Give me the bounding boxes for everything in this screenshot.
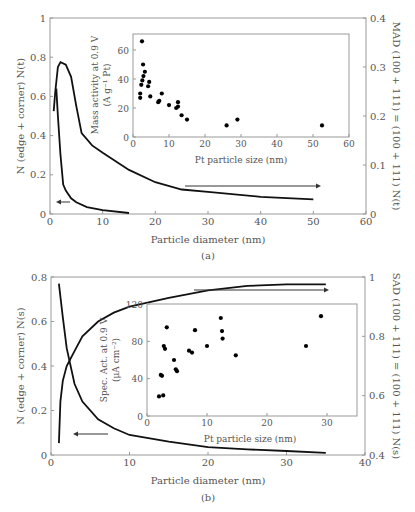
panel-b-inset: 0102030 04080120 Pt particle size (nm) S… xyxy=(99,300,357,445)
panel-a-x-axis-label: Particle diameter (nm) xyxy=(151,234,266,245)
scatter-point xyxy=(172,358,176,362)
x-tick-label: 30 xyxy=(235,139,247,149)
panel-a-caption: (a) xyxy=(201,250,215,261)
panel-a-inset-y-axis-label-line1: Mass activity at 0.9 V xyxy=(90,35,100,134)
y-tick-label: 0.2 xyxy=(370,111,386,122)
scatter-point xyxy=(320,123,324,127)
y-tick-label: 0.4 xyxy=(31,361,47,372)
scatter-point xyxy=(146,84,150,88)
x-tick-label: 10 xyxy=(123,457,136,468)
x-tick-label: 20 xyxy=(199,139,211,149)
y-tick-label: 0 xyxy=(123,133,129,143)
y-tick-label: 80 xyxy=(132,337,144,347)
scatter-point xyxy=(138,91,142,95)
scatter-point xyxy=(157,394,161,398)
scatter-point xyxy=(147,80,151,84)
scatter-point xyxy=(176,100,180,104)
scatter-point xyxy=(139,83,143,87)
y-tick-label: 120 xyxy=(126,300,143,310)
scatter-point xyxy=(190,350,194,354)
x-tick-label: 0 xyxy=(47,216,53,227)
y-tick-label: 0.6 xyxy=(369,390,385,401)
panel-b-inset-frame xyxy=(147,304,357,416)
scatter-point xyxy=(180,113,184,117)
panel-b-inset-y-axis-label-line1: Spec. Act. at 0.9 V xyxy=(99,317,109,402)
panel-a-inset-y-axis-label-line2: (A g⁻¹ Pt) xyxy=(102,63,112,106)
y-tick-label: 0 xyxy=(370,209,376,220)
panel-b-left-y-axis-label: N (edge + corner) N(s) xyxy=(15,307,26,425)
right-arrow-icon xyxy=(194,288,329,293)
scatter-point xyxy=(225,123,229,127)
y-tick-label: 0.8 xyxy=(31,272,47,283)
y-tick-label: 0 xyxy=(137,412,143,422)
panel-a-inset-x-axis-label: Pt particle size (nm) xyxy=(195,155,287,165)
x-tick-label: 10 xyxy=(163,139,175,149)
scatter-point xyxy=(163,347,167,351)
scatter-point xyxy=(176,104,180,108)
x-tick-label: 30 xyxy=(321,418,333,428)
x-tick-label: 0 xyxy=(130,139,136,149)
scatter-point xyxy=(140,39,144,43)
panel-b-right-y-axis-label: SAD (100 + 111) = (100 + 111) N(s) xyxy=(391,273,402,459)
panel-a: 0102030405060 00.20.40.60.81 00.10.20.30… xyxy=(15,13,402,262)
x-tick-label: 50 xyxy=(307,216,320,227)
x-tick-label: 50 xyxy=(307,139,319,149)
y-tick-label: 60 xyxy=(118,46,130,56)
scatter-point xyxy=(185,118,189,122)
x-tick-label: 20 xyxy=(149,216,162,227)
scatter-point xyxy=(304,344,308,348)
scatter-point xyxy=(193,328,197,332)
y-tick-label: 1 xyxy=(369,272,375,283)
y-tick-label: 0.4 xyxy=(369,450,385,461)
y-tick-label: 0.2 xyxy=(30,169,46,180)
y-tick-label: 0.3 xyxy=(370,62,386,73)
y-tick-label: 0 xyxy=(40,209,46,220)
panel-b-caption: (b) xyxy=(201,492,215,503)
y-tick-label: 0.6 xyxy=(30,91,46,102)
scatter-point xyxy=(138,96,142,100)
y-tick-label: 0.1 xyxy=(370,160,386,171)
left-arrow-icon xyxy=(56,200,70,205)
x-tick-label: 10 xyxy=(96,216,109,227)
x-tick-label: 10 xyxy=(201,418,213,428)
x-tick-label: 30 xyxy=(280,457,293,468)
scatter-point xyxy=(220,329,224,333)
scatter-point xyxy=(140,78,144,82)
x-tick-label: 40 xyxy=(271,139,283,149)
panel-b-inset-y-axis-label-line2: (μA cm⁻²) xyxy=(111,338,121,382)
scatter-point xyxy=(234,353,238,357)
scatter-point xyxy=(319,314,323,318)
x-tick-label: 20 xyxy=(261,418,273,428)
y-tick-label: 0.4 xyxy=(370,13,386,24)
panel-a-inset-frame xyxy=(133,34,349,137)
x-tick-label: 60 xyxy=(343,139,355,149)
left-arrow-icon xyxy=(73,432,108,437)
y-tick-label: 0.2 xyxy=(31,405,47,416)
scatter-point xyxy=(235,118,239,122)
scatter-point xyxy=(160,91,164,95)
scatter-point xyxy=(219,316,223,320)
y-tick-label: 0.4 xyxy=(30,130,46,141)
y-tick-label: 0.8 xyxy=(369,331,385,342)
panel-b-x-ticks: 010203040 xyxy=(48,452,372,468)
scatter-point xyxy=(157,99,161,103)
y-tick-label: 1 xyxy=(40,13,46,24)
panel-a-x-ticks: 0102030405060 xyxy=(47,211,373,227)
y-tick-label: 0.6 xyxy=(31,316,47,327)
scatter-point xyxy=(167,103,171,107)
scatter-point xyxy=(143,70,147,74)
panel-a-left-y-axis-label: N (edge + corner) N(t) xyxy=(15,58,26,174)
scatter-point xyxy=(141,62,145,66)
scatter-point xyxy=(161,393,165,397)
y-tick-label: 0.8 xyxy=(30,52,46,63)
x-tick-label: 0 xyxy=(144,418,150,428)
y-tick-label: 40 xyxy=(118,75,130,85)
scatter-point xyxy=(141,74,145,78)
panel-b-x-axis-label: Particle diameter (nm) xyxy=(151,475,266,486)
scatter-point xyxy=(160,374,164,378)
right-arrow-icon xyxy=(185,184,321,189)
y-tick-label: 20 xyxy=(118,104,130,114)
scatter-point xyxy=(205,344,209,348)
x-tick-label: 20 xyxy=(202,457,215,468)
panel-b-inset-y-ticks: 04080120 xyxy=(126,300,150,422)
